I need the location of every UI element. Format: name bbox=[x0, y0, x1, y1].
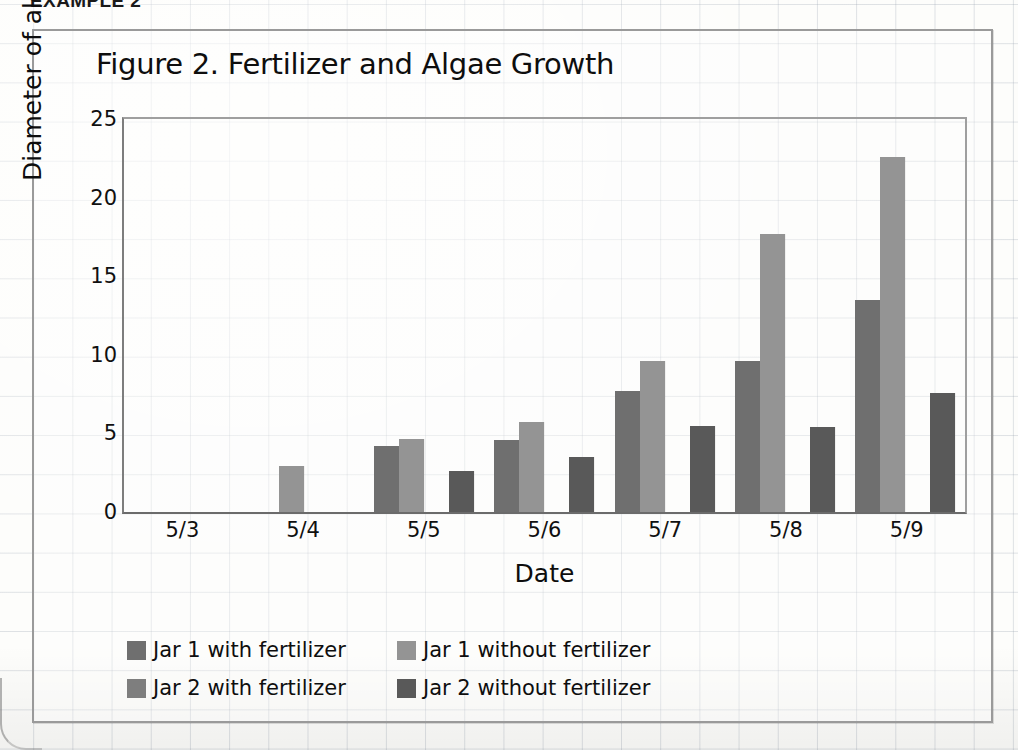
bar bbox=[494, 440, 519, 512]
legend-swatch-icon bbox=[397, 641, 416, 660]
chart-frame: Figure 2. Fertilizer and Algae Growth Di… bbox=[32, 29, 993, 723]
x-tick-label: 5/5 bbox=[363, 518, 484, 542]
legend-label: Jar 1 with fertilizer bbox=[153, 638, 346, 662]
legend-label: Jar 2 with fertilizer bbox=[153, 676, 346, 700]
plot-area: 0510152025 bbox=[122, 117, 967, 514]
legend-item: Jar 1 without fertilizer bbox=[397, 638, 687, 662]
y-axis-label: Diameter of algae (mm) bbox=[18, 0, 47, 181]
bar-group bbox=[124, 119, 244, 512]
bar-group bbox=[364, 119, 484, 512]
legend-swatch-icon bbox=[397, 679, 416, 698]
bar bbox=[735, 361, 760, 512]
legend-swatch-icon bbox=[127, 679, 146, 698]
bar bbox=[690, 426, 715, 512]
chart-legend: Jar 1 with fertilizerJar 1 without ferti… bbox=[127, 631, 687, 707]
x-tick-label: 5/3 bbox=[122, 518, 243, 542]
y-tick-label: 15 bbox=[90, 264, 117, 288]
y-tick-label: 20 bbox=[90, 186, 117, 210]
x-tick-label: 5/7 bbox=[605, 518, 726, 542]
x-tick-label: 5/9 bbox=[846, 518, 967, 542]
legend-item: Jar 1 with fertilizer bbox=[127, 638, 397, 662]
bar bbox=[449, 471, 474, 512]
bar bbox=[810, 427, 835, 512]
bar bbox=[569, 457, 594, 512]
bar bbox=[279, 466, 304, 512]
x-tick-label: 5/8 bbox=[726, 518, 847, 542]
y-tick-label: 10 bbox=[90, 343, 117, 367]
bar-series-container bbox=[124, 119, 965, 512]
y-tick-label: 25 bbox=[90, 107, 117, 131]
bar bbox=[855, 300, 880, 512]
y-tick-label: 5 bbox=[104, 421, 117, 445]
bar bbox=[760, 234, 785, 512]
bar bbox=[615, 391, 640, 512]
x-axis-ticks: 5/35/45/55/65/75/85/9 bbox=[122, 518, 967, 542]
bar bbox=[374, 446, 399, 512]
legend-item: Jar 2 without fertilizer bbox=[397, 676, 687, 700]
bar bbox=[930, 393, 955, 512]
x-tick-label: 5/6 bbox=[484, 518, 605, 542]
x-axis-label: Date bbox=[122, 559, 967, 588]
x-tick-label: 5/4 bbox=[243, 518, 364, 542]
bar-group bbox=[244, 119, 364, 512]
bar bbox=[519, 422, 544, 512]
bar bbox=[640, 361, 665, 512]
legend-swatch-icon bbox=[127, 641, 146, 660]
bar-group bbox=[484, 119, 604, 512]
bar bbox=[880, 157, 905, 512]
chart-title: Figure 2. Fertilizer and Algae Growth bbox=[96, 47, 614, 81]
bar-group bbox=[605, 119, 725, 512]
bar-group bbox=[845, 119, 965, 512]
bar-group bbox=[725, 119, 845, 512]
legend-label: Jar 1 without fertilizer bbox=[423, 638, 650, 662]
legend-item: Jar 2 with fertilizer bbox=[127, 676, 397, 700]
bar bbox=[399, 439, 424, 512]
y-tick-label: 0 bbox=[104, 500, 117, 524]
legend-label: Jar 2 without fertilizer bbox=[423, 676, 650, 700]
